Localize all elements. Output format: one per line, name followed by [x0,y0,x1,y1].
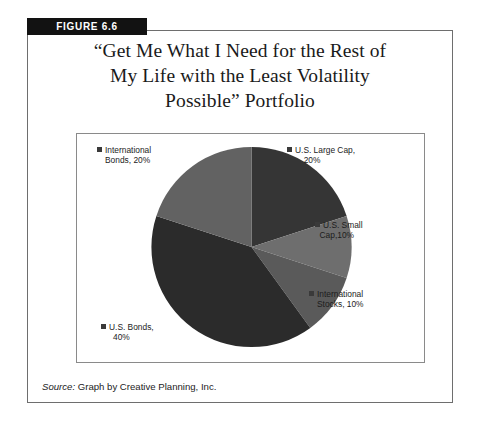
pie-chart: International Bonds, 20% U.S. Large Cap,… [77,134,426,364]
pie-label-us-bonds-line-2: 40% [101,332,154,342]
figure-title-line-1: “Get Me What I Need for the Rest of [94,40,386,61]
legend-marker-icon [287,147,292,152]
figure-number-banner: FIGURE 6.6 [27,18,147,35]
legend-marker-icon [309,291,314,296]
figure-title-line-2: My Life with the Least Volatility [110,65,370,86]
chart-plot-area: International Bonds, 20% U.S. Large Cap,… [76,133,425,363]
pie-label-international-bonds: International Bonds, 20% [97,145,151,166]
legend-marker-icon [101,324,106,329]
pie-label-us-bonds: U.S. Bonds, 40% [101,322,154,343]
pie-label-international-bonds-line-1: International [105,145,151,155]
legend-marker-icon [97,147,102,152]
figure-title-line-3: Possible” Portfolio [165,90,315,111]
pie-label-international-stocks: International Stocks, 10% [309,289,364,310]
pie-label-us-large-cap-line-2: 20% [287,155,355,165]
legend-marker-icon [315,222,320,227]
source-label: Source: [42,381,75,392]
pie-label-international-stocks-line-1: International [317,289,363,299]
pie-label-us-large-cap: U.S. Large Cap, 20% [287,145,355,166]
pie-label-us-small-cap-line-2: Cap,10% [315,230,363,240]
pie-label-international-stocks-line-2: Stocks, 10% [309,299,364,309]
pie-label-us-small-cap-line-1: U.S. Small [323,220,363,230]
figure-title: “Get Me What I Need for the Rest of My L… [32,38,448,113]
pie-label-us-bonds-line-1: U.S. Bonds, [109,322,154,332]
pie-label-international-bonds-line-2: Bonds, 20% [97,155,151,165]
source-text: Graph by Creative Planning, Inc. [75,381,216,392]
source-note: Source: Graph by Creative Planning, Inc. [42,381,216,392]
pie-label-us-small-cap: U.S. Small Cap,10% [315,220,363,241]
pie-label-us-large-cap-line-1: U.S. Large Cap, [295,145,355,155]
